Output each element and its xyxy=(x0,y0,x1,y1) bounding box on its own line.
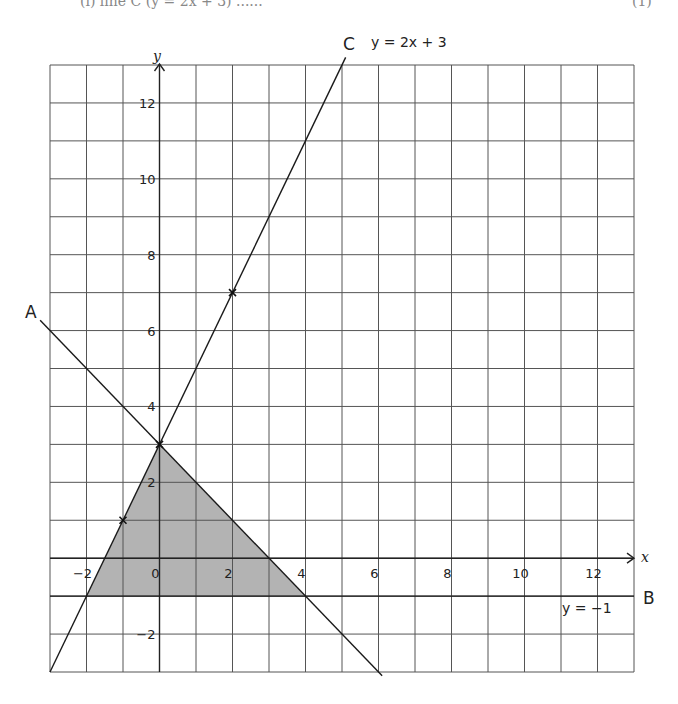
x-tick-label: 0 xyxy=(151,566,159,581)
x-tick-label: 2 xyxy=(224,566,232,581)
line-a xyxy=(40,320,382,675)
line-b-equation: y = −1 xyxy=(562,600,612,616)
x-axis-label: x xyxy=(641,549,649,565)
line-c-label: C xyxy=(343,34,355,54)
x-tick-label: 8 xyxy=(443,566,451,581)
y-tick-label: −2 xyxy=(136,627,155,642)
line-b-label: B xyxy=(643,588,655,608)
cut-off-marks: (1) xyxy=(632,0,652,9)
x-tick-label: 6 xyxy=(370,566,378,581)
y-tick-label: 2 xyxy=(147,475,155,490)
cut-off-question-text: (i) line C (y = 2x + 3) ...... xyxy=(80,0,263,9)
graph: (i) line C (y = 2x + 3) ...... (1) −2024… xyxy=(0,0,678,704)
y-tick-label: 4 xyxy=(147,399,155,414)
line-c-equation: y = 2x + 3 xyxy=(371,34,447,50)
y-tick-label: 8 xyxy=(147,248,155,263)
x-tick-label: 12 xyxy=(585,566,602,581)
x-tick-label: 4 xyxy=(297,566,305,581)
line-a-label: A xyxy=(25,302,37,322)
y-tick-label: 6 xyxy=(147,324,155,339)
y-tick-label: 10 xyxy=(139,172,156,187)
y-axis-label: y xyxy=(152,48,162,64)
x-tick-label: 10 xyxy=(512,566,529,581)
y-tick-label: 12 xyxy=(139,96,156,111)
x-tick-label: −2 xyxy=(73,566,92,581)
